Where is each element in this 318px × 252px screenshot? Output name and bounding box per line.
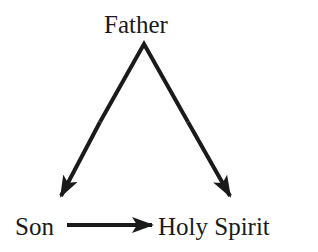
- apex-lines: [100, 44, 188, 122]
- arrows: [0, 0, 318, 252]
- arrow-father-to-holy-spirit: [188, 122, 230, 196]
- arrow-father-to-son: [61, 122, 100, 196]
